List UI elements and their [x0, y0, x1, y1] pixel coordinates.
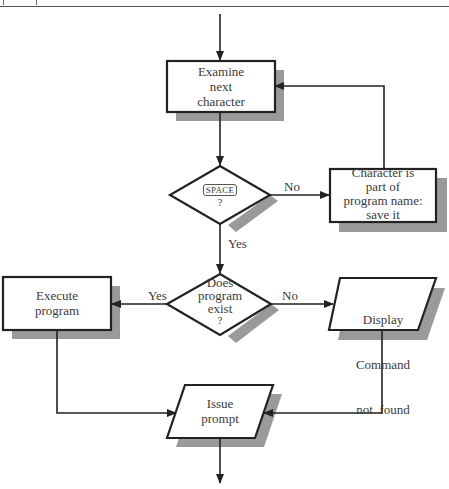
exists-decision-label: Does program exist ?	[180, 276, 260, 325]
execute-line: program	[3, 303, 111, 318]
space-question: ?	[175, 196, 265, 209]
examine-line: Examine	[167, 64, 275, 79]
exists-no-label: No	[282, 288, 298, 304]
examine-line: next	[167, 79, 275, 94]
space-yes-label: Yes	[228, 236, 247, 252]
display-label: Display Command not found	[333, 282, 433, 432]
examine-line: character	[167, 94, 275, 109]
space-decision-label: SPACE ?	[175, 182, 265, 209]
save-char-line: Character is	[330, 166, 436, 180]
execute-label: Execute program	[3, 288, 111, 318]
execute-line: Execute	[3, 288, 111, 303]
display-line: Display	[333, 312, 433, 327]
space-no-label: No	[284, 179, 300, 195]
space-key-badge: SPACE	[203, 184, 238, 196]
execute-to-issue	[57, 330, 176, 413]
exists-line: ?	[180, 315, 260, 325]
examine-label: Examine next character	[167, 64, 275, 109]
issue-line: Issue	[175, 396, 265, 411]
issue-label: Issue prompt	[175, 396, 265, 426]
save-char-line: part of	[330, 180, 436, 194]
save-loop-arrow	[275, 86, 384, 169]
save-char-label: Character is part of program name: save …	[330, 166, 436, 222]
display-line: not found	[333, 402, 433, 417]
save-char-line: program name:	[330, 194, 436, 208]
display-line: Command	[333, 357, 433, 372]
issue-line: prompt	[175, 411, 265, 426]
save-char-line: save it	[330, 208, 436, 222]
exists-yes-label: Yes	[148, 288, 167, 304]
